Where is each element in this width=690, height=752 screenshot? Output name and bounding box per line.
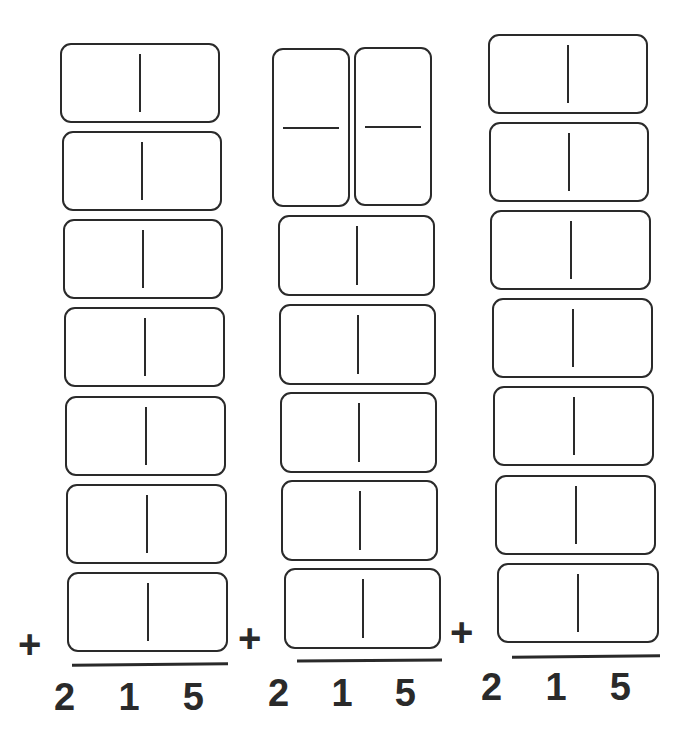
domino-blank[interactable]: [284, 568, 441, 649]
domino-divider: [356, 226, 358, 285]
domino-blank[interactable]: [495, 475, 656, 555]
domino-blank[interactable]: [63, 219, 223, 299]
sum-answer: 2 1 5: [481, 668, 631, 706]
domino-blank[interactable]: [64, 307, 225, 387]
domino-divider: [139, 54, 141, 112]
domino-divider: [570, 221, 572, 279]
sum-digit: 2: [268, 674, 289, 712]
domino-blank[interactable]: [60, 43, 220, 123]
sum-digit: 5: [395, 674, 416, 712]
sum-rule: [72, 662, 228, 666]
sum-digit: 2: [481, 668, 502, 706]
sum-digit: 1: [331, 674, 352, 712]
domino-blank[interactable]: [490, 210, 651, 290]
domino-blank[interactable]: [489, 122, 649, 202]
domino-blank[interactable]: [493, 386, 654, 466]
domino-blank[interactable]: [279, 304, 436, 385]
sum-rule: [297, 658, 442, 662]
domino-blank[interactable]: [280, 392, 437, 473]
domino-blank[interactable]: [278, 215, 435, 296]
domino-divider: [141, 142, 143, 200]
domino-blank[interactable]: [497, 563, 659, 643]
domino-divider: [147, 583, 149, 641]
sum-answer: 2 1 5: [268, 674, 416, 712]
sum-digit: 5: [183, 678, 204, 716]
domino-divider: [146, 495, 148, 553]
domino-blank[interactable]: [492, 298, 653, 378]
plus-sign: +: [238, 618, 261, 658]
sum-digit: 5: [610, 668, 631, 706]
domino-divider: [568, 133, 570, 191]
domino-blank[interactable]: [67, 572, 228, 652]
domino-divider: [359, 491, 361, 550]
domino-divider: [573, 397, 575, 455]
domino-vertical-blank[interactable]: [272, 48, 350, 207]
domino-blank[interactable]: [65, 396, 226, 476]
domino-divider: [572, 309, 574, 367]
domino-divider: [362, 579, 364, 638]
sum-rule: [512, 654, 660, 658]
plus-sign: +: [450, 612, 473, 652]
domino-divider: [365, 126, 421, 128]
domino-vertical-blank[interactable]: [354, 47, 432, 206]
domino-blank[interactable]: [281, 480, 438, 561]
sum-digit: 2: [54, 678, 75, 716]
domino-divider: [145, 407, 147, 465]
sum-answer: 2 1 5: [54, 678, 204, 716]
plus-sign: +: [18, 624, 41, 664]
domino-divider: [283, 127, 339, 129]
domino-divider: [577, 574, 579, 632]
domino-blank[interactable]: [62, 131, 222, 211]
sum-digit: 1: [118, 678, 139, 716]
domino-divider: [142, 230, 144, 288]
domino-divider: [567, 45, 569, 103]
domino-divider: [575, 486, 577, 544]
domino-blank[interactable]: [66, 484, 227, 564]
domino-blank[interactable]: [488, 34, 648, 114]
sum-digit: 1: [545, 668, 566, 706]
domino-divider: [357, 315, 359, 374]
domino-divider: [144, 318, 146, 376]
domino-divider: [358, 403, 360, 462]
